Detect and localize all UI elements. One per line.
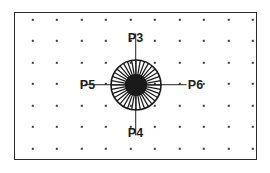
grid-dot [105, 104, 107, 106]
point-label-p3: P3 [128, 31, 144, 44]
grid-dot [203, 147, 205, 149]
grid-dot [252, 147, 254, 149]
grid-dot [80, 61, 82, 63]
grid-dot [80, 40, 82, 42]
grid-dot [227, 61, 229, 63]
grid-dot [129, 147, 131, 149]
grid-dot [105, 61, 107, 63]
grid-dot [56, 18, 58, 20]
grid-dot [252, 104, 254, 106]
grid-dot [178, 126, 180, 128]
grid-dot [203, 61, 205, 63]
grid-dot [80, 18, 82, 20]
grid-dot [252, 18, 254, 20]
grid-dot [129, 18, 131, 20]
grid-dot [56, 61, 58, 63]
grid-dot [56, 147, 58, 149]
grid-dot [31, 40, 33, 42]
grid-dot [105, 147, 107, 149]
point-label-p4: P4 [128, 126, 144, 139]
grid-dot [227, 147, 229, 149]
grid-dot [80, 147, 82, 149]
grid-dot [252, 83, 254, 85]
drawing-frame: P3P4P5P6 [14, 12, 257, 160]
grid-dot [178, 61, 180, 63]
grid-dot [56, 83, 58, 85]
grid-dot [203, 126, 205, 128]
grid-dot [178, 18, 180, 20]
grid-dot [178, 147, 180, 149]
grid-dot [56, 40, 58, 42]
grid-dot [31, 147, 33, 149]
grid-dot [56, 126, 58, 128]
grid-dot [154, 147, 156, 149]
point-label-p5: P5 [80, 78, 96, 91]
grid-dot [31, 104, 33, 106]
grid-dot [227, 83, 229, 85]
grid-dot [31, 83, 33, 85]
grid-dot [154, 126, 156, 128]
grid-dot [154, 40, 156, 42]
grid-dot [203, 104, 205, 106]
grid-dot [178, 104, 180, 106]
point-label-p6: P6 [188, 78, 204, 91]
grid-dot [227, 126, 229, 128]
grid-dot [227, 40, 229, 42]
grid-dot [31, 61, 33, 63]
radial-hub-icon [109, 58, 163, 112]
grid-dot [252, 40, 254, 42]
grid-dot [227, 18, 229, 20]
grid-dot [31, 18, 33, 20]
grid-dot [56, 104, 58, 106]
grid-dot [203, 40, 205, 42]
grid-dot [80, 104, 82, 106]
grid-dot [252, 61, 254, 63]
grid-dot [252, 126, 254, 128]
grid-dot [31, 126, 33, 128]
grid-dot [80, 126, 82, 128]
grid-dot [105, 40, 107, 42]
grid-dot [203, 18, 205, 20]
grid-dot [178, 40, 180, 42]
grid-dot [154, 18, 156, 20]
grid-dot [105, 18, 107, 20]
grid-dot [227, 104, 229, 106]
grid-dot [105, 126, 107, 128]
diagram-canvas: P3P4P5P6 [0, 0, 270, 173]
